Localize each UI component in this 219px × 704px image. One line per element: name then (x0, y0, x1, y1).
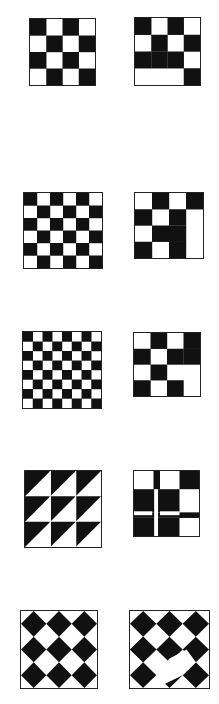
pattern-p4-left (24, 470, 102, 548)
pattern-p5-right (129, 610, 210, 689)
pattern-p5-left (20, 610, 98, 689)
pattern-p1-left (29, 18, 96, 86)
pattern-p3-left (22, 331, 102, 409)
pattern-p2-left (23, 192, 103, 269)
pattern-p4-right (133, 470, 200, 537)
pattern-p1-right (134, 17, 201, 86)
pattern-p3-right (133, 332, 201, 397)
pattern-p2-right (134, 192, 204, 259)
